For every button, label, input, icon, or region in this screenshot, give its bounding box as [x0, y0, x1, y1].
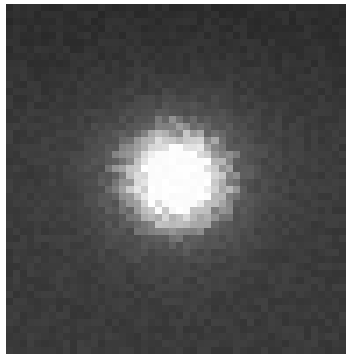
point-source-image [6, 4, 346, 354]
image-frame [6, 4, 346, 354]
